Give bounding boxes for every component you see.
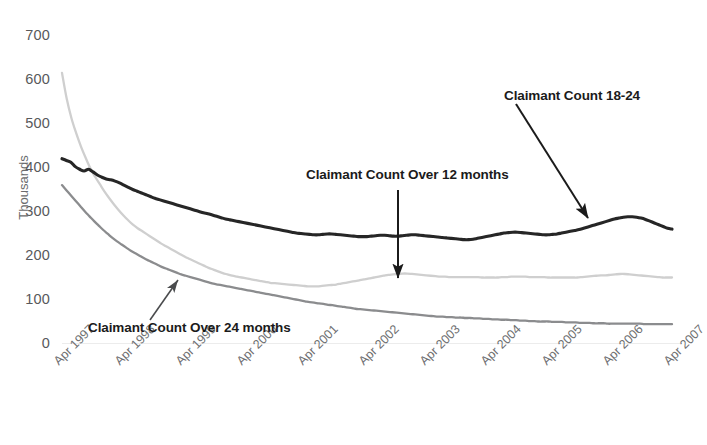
- y-axis-tick-600: 600: [4, 71, 50, 87]
- annotation-label-claimant-count-over-12-months: Claimant Count Over 12 months: [306, 167, 509, 182]
- y-axis-tick-400: 400: [4, 159, 50, 175]
- y-axis-title: Thousands: [16, 143, 31, 233]
- annotation-label-claimant-count-18-24: Claimant Count 18-24: [504, 88, 640, 103]
- annotation-arrows: [150, 104, 588, 320]
- arrow-over-24: [150, 280, 178, 320]
- series-layer: [62, 73, 672, 324]
- y-axis-tick-300: 300: [4, 203, 50, 219]
- y-axis-tick-100: 100: [4, 291, 50, 307]
- y-axis-tick-0: 0: [4, 335, 50, 351]
- y-axis-tick-500: 500: [4, 115, 50, 131]
- arrow-18-24: [516, 104, 588, 218]
- annotation-label-claimant-count-over-24-months: Claimant Count Over 24 months: [88, 320, 291, 335]
- y-axis-tick-200: 200: [4, 247, 50, 263]
- y-axis-tick-700: 700: [4, 27, 50, 43]
